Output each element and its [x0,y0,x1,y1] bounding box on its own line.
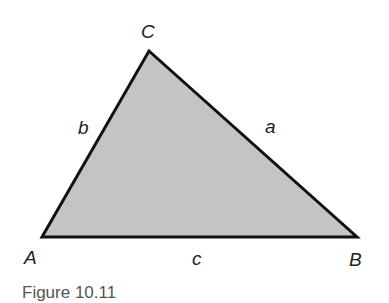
vertex-label-a: A [24,248,37,267]
triangle-abc [42,51,357,237]
side-label-c: c [192,249,202,268]
side-label-b: b [78,118,89,137]
vertex-label-c: C [141,22,155,41]
vertex-label-b: B [349,250,362,269]
side-label-a: a [265,117,276,136]
figure-caption: Figure 10.11 [22,283,116,303]
